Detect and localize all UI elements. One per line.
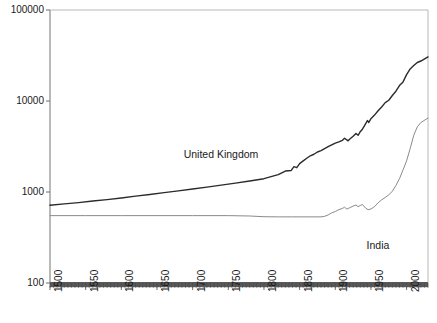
series-lines — [50, 57, 428, 217]
series-line-india — [50, 118, 428, 217]
x-axis-tick-label: 1750 — [232, 270, 242, 292]
series-line-united-kingdom — [50, 57, 428, 205]
series-annotation: United Kingdom — [184, 148, 259, 160]
x-axis-tick-label: 1550 — [90, 270, 100, 292]
series-annotation: India — [367, 239, 390, 251]
x-axis-tick-label: 2000 — [411, 270, 421, 292]
x-axis-tick-label: 1950 — [375, 270, 385, 292]
y-axis-tick-label: 100000 — [0, 5, 44, 15]
y-axis-tick-label: 10000 — [0, 96, 44, 106]
chart-plot-area — [0, 0, 437, 323]
x-axis-tick-label: 1600 — [125, 270, 135, 292]
x-axis-tick-label: 1800 — [268, 270, 278, 292]
x-axis-tick-label: 1650 — [161, 270, 171, 292]
y-axis-tick-label: 100 — [0, 278, 44, 288]
chart-figure: 100100010000100000 150015501600165017001… — [0, 0, 437, 323]
x-axis-tick-label: 1500 — [54, 270, 64, 292]
x-axis-tick-label: 1700 — [197, 270, 207, 292]
y-axis-tick-label: 1000 — [0, 187, 44, 197]
x-axis-tick-label: 1850 — [304, 270, 314, 292]
x-axis-tick-label: 1900 — [339, 270, 349, 292]
